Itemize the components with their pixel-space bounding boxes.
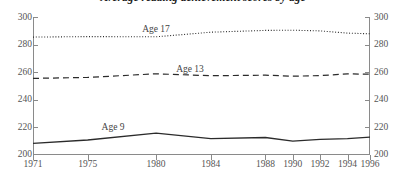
series-label-age-17: Age 17 [142,24,170,34]
series-line-age-9 [33,133,370,143]
series-line-age-13 [33,74,370,79]
series-label-age-9: Age 9 [102,122,125,132]
x-axis-tick-label-1971: 1971 [24,159,43,169]
x-axis-tick-label-1988: 1988 [256,159,275,169]
series-label-age-13: Age 13 [176,64,204,74]
x-axis-tick-label-1980: 1980 [147,159,166,169]
series-line-age-17 [33,30,370,37]
x-axis-tick-label-1975: 1975 [78,159,97,169]
x-axis-tick-label-1994: 1994 [338,159,357,169]
chart-figure: Average reading achievement scores by ag… [0,0,406,180]
x-axis-tick-label-1984: 1984 [201,159,220,169]
series-lines-layer [0,0,406,180]
x-axis-tick-label-1992: 1992 [311,159,330,169]
x-axis-tick-label-1990: 1990 [283,159,302,169]
x-axis-tick-label-1996: 1996 [361,159,380,169]
